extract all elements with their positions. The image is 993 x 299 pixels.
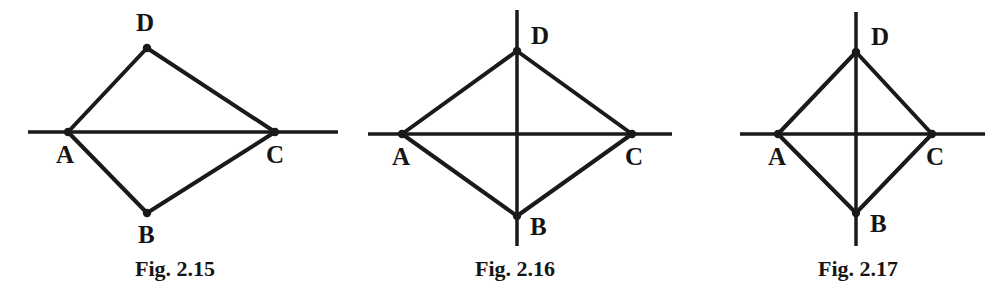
vertex-dot-B-fig-2-17 (852, 209, 860, 217)
edge-AD-fig-2-17 (778, 52, 856, 134)
figure-drawing-fig-2-17 (0, 0, 993, 299)
vertex-label-D-fig-2-17: D (871, 24, 889, 49)
vertex-dot-A-fig-2-17 (774, 130, 782, 138)
edge-DC-fig-2-17 (856, 52, 932, 134)
figure-caption-fig-2-17: Fig. 2.17 (798, 258, 918, 280)
edge-CB-fig-2-17 (856, 134, 932, 213)
vertex-label-C-fig-2-17: C (926, 144, 944, 169)
figure-fig-2-17: ABCDFig. 2.17 (0, 0, 993, 299)
vertex-label-B-fig-2-17: B (870, 211, 887, 236)
vertex-dot-D-fig-2-17 (852, 48, 860, 56)
edge-BA-fig-2-17 (778, 134, 856, 213)
vertex-label-A-fig-2-17: A (768, 144, 786, 169)
figure-plate: ABCDFig. 2.15ABCDFig. 2.16ABCDFig. 2.17 (0, 0, 993, 299)
vertex-dot-C-fig-2-17 (928, 130, 936, 138)
